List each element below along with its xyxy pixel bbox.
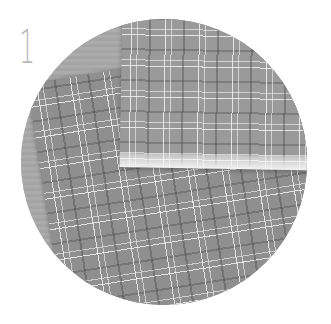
plaid-fabric-front — [120, 19, 307, 171]
fabric-photo — [21, 19, 307, 305]
